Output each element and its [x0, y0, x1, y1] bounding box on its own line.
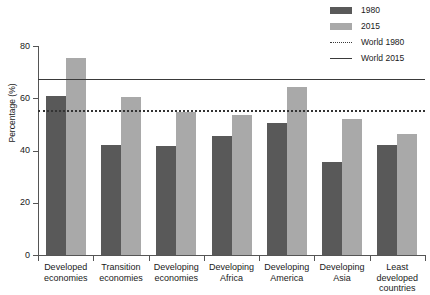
bar-2015-developing-africa	[232, 115, 252, 255]
x-axis-tick	[38, 255, 39, 261]
bar-1980-developing-economies	[156, 146, 176, 255]
y-axis-tick-label: 60	[4, 94, 30, 103]
bar-1980-least-developed-countries	[377, 145, 397, 255]
x-axis-group-label: DevelopingAmerica	[255, 262, 318, 283]
x-axis-group-label-line: America	[255, 273, 318, 284]
bar-2015-least-developed-countries	[397, 134, 417, 255]
bar-1980-transition-economies	[101, 145, 121, 255]
y-axis-tick-label: 20	[4, 198, 30, 207]
x-axis-group-label: Transitioneconomies	[89, 262, 152, 283]
bar-1980-developing-america	[267, 123, 287, 255]
x-axis-group-label-line: Developing	[200, 262, 263, 273]
bar-2015-developing-america	[287, 87, 307, 255]
x-axis-group-label-line: Developed	[34, 262, 97, 273]
x-axis-group-label-line: countries	[366, 283, 429, 294]
x-axis-group-label-line: Developing	[255, 262, 318, 273]
bar-1980-developing-africa	[212, 136, 232, 255]
reference-line-world-1980	[38, 110, 425, 112]
x-axis-group-label-line: economies	[34, 273, 97, 284]
bar-1980-developing-asia	[322, 162, 342, 255]
bar-2015-developed-economies	[66, 58, 86, 255]
x-axis-group-label-line: Transition	[89, 262, 152, 273]
y-axis-tick-label: 40	[4, 146, 30, 155]
x-axis-group-label-line: Least	[366, 262, 429, 273]
x-axis-group-label: Developedeconomies	[34, 262, 97, 283]
bar-1980-developed-economies	[46, 96, 66, 255]
chart-figure: 1980 2015 World 1980 World 2015 Percenta…	[0, 0, 430, 295]
x-axis-tick	[370, 255, 371, 261]
bar-2015-developing-economies	[176, 112, 196, 255]
x-axis-group-label-line: Asia	[310, 273, 373, 284]
x-axis-tick	[259, 255, 260, 261]
y-axis-tick-label: 80	[4, 42, 30, 51]
x-axis-group-label-line: economies	[89, 273, 152, 284]
x-axis-group-label-line: developed	[366, 273, 429, 284]
x-axis-group-label-line: Developing	[145, 262, 208, 273]
plot-area	[38, 46, 425, 255]
bar-2015-developing-asia	[342, 119, 362, 255]
reference-line-world-2015	[38, 79, 425, 80]
x-axis-tick	[425, 255, 426, 261]
y-axis-tick-label: 0	[4, 251, 30, 260]
x-axis-tick	[204, 255, 205, 261]
x-axis-tick	[149, 255, 150, 261]
x-axis-tick	[314, 255, 315, 261]
x-axis-group-label-line: Developing	[310, 262, 373, 273]
x-axis-group-label: DevelopingAfrica	[200, 262, 263, 283]
x-axis-group-label-line: Africa	[200, 273, 263, 284]
x-axis-group-label: Leastdevelopedcountries	[366, 262, 429, 294]
x-axis-group-label: Developingeconomies	[145, 262, 208, 283]
x-axis-tick	[93, 255, 94, 261]
x-axis-group-label-line: economies	[145, 273, 208, 284]
bar-2015-transition-economies	[121, 97, 141, 255]
x-axis-group-label: DevelopingAsia	[310, 262, 373, 283]
